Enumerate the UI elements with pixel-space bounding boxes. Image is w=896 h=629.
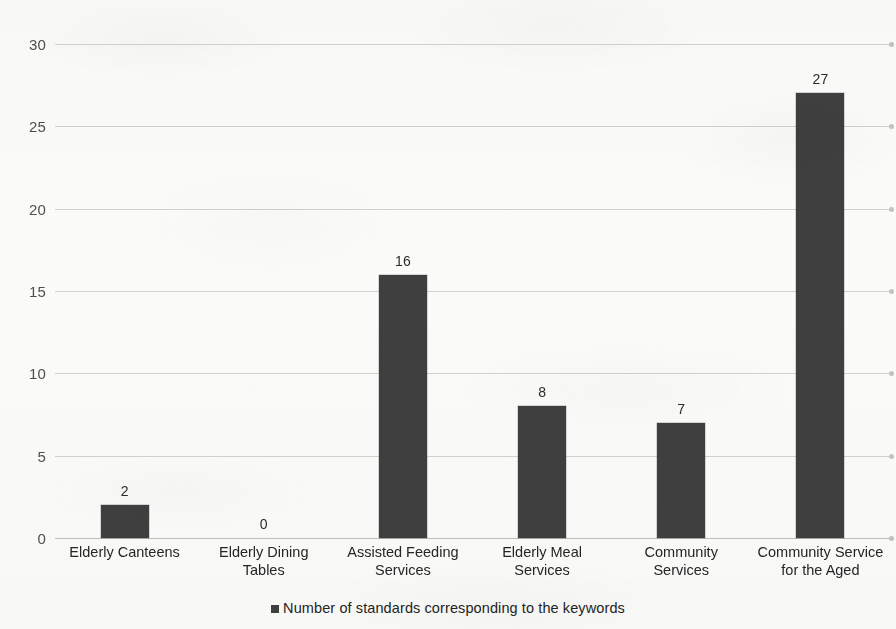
bar-value-label: 2 — [121, 483, 129, 499]
bar-group: 27 — [751, 44, 890, 538]
bar[interactable] — [657, 423, 705, 538]
chart-legend: Number of standards corresponding to the… — [0, 600, 896, 616]
x-axis-category-label: Community Servicefor the Aged — [751, 543, 890, 579]
bar-group: 16 — [333, 44, 472, 538]
bar-value-label: 27 — [813, 71, 829, 87]
bar-value-label: 0 — [260, 516, 268, 532]
bar-group: 0 — [194, 44, 333, 538]
x-axis-category-label: Elderly MealServices — [473, 543, 612, 579]
bar[interactable] — [518, 406, 566, 538]
y-axis-tick-label: 25 — [29, 118, 46, 135]
bar[interactable] — [796, 93, 844, 538]
bar-group: 8 — [473, 44, 612, 538]
x-axis-category-label: Elderly DiningTables — [194, 543, 333, 579]
y-axis-tick-label: 30 — [29, 36, 46, 53]
bar[interactable] — [379, 275, 427, 538]
bar-group: 2 — [55, 44, 194, 538]
bar-value-label: 7 — [677, 401, 685, 417]
x-axis-category-label: Elderly Canteens — [55, 543, 194, 561]
gridline-0: 0 — [55, 538, 890, 539]
y-axis-tick-label: 15 — [29, 283, 46, 300]
x-axis-category-labels: Elderly CanteensElderly DiningTablesAssi… — [55, 543, 890, 589]
plot-area: 05101520253020168727 — [55, 44, 890, 538]
y-axis-tick-label: 5 — [37, 447, 46, 464]
y-axis-tick-label: 0 — [37, 530, 46, 547]
y-axis-tick-label: 20 — [29, 200, 46, 217]
x-axis-category-label: CommunityServices — [612, 543, 751, 579]
bar-value-label: 16 — [395, 253, 411, 269]
square-marker-icon — [271, 605, 279, 613]
y-axis-tick-label: 10 — [29, 365, 46, 382]
chart-figure: 05101520253020168727 Elderly CanteensEld… — [0, 0, 896, 629]
x-axis-category-label: Assisted FeedingServices — [333, 543, 472, 579]
legend-label: Number of standards corresponding to the… — [283, 600, 625, 616]
bar[interactable] — [101, 505, 149, 538]
bar-group: 7 — [612, 44, 751, 538]
bar-value-label: 8 — [538, 384, 546, 400]
